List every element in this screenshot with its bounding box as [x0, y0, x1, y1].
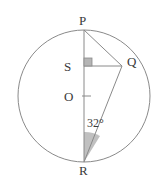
vertex-label-p: P	[79, 14, 86, 27]
vertex-label-s: S	[64, 60, 71, 73]
segment-r-q-chord	[84, 66, 122, 162]
vertex-label-r: R	[79, 164, 88, 177]
shaded-angle-wedge-at-r	[84, 132, 100, 162]
geometry-figure: P Q S O R 32°	[0, 0, 156, 185]
vertex-label-q: Q	[127, 55, 136, 68]
geometry-canvas	[0, 0, 156, 185]
right-angle-marker-at-s	[84, 58, 92, 66]
vertex-label-o-centre: O	[64, 90, 73, 103]
angle-measure-label-at-r: 32°	[87, 117, 104, 129]
